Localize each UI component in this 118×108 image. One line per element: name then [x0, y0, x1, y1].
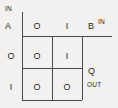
input-marker-right-label: IN: [98, 19, 105, 26]
input-marker-left-label: IN: [5, 6, 12, 13]
row-header-1: I: [2, 83, 20, 92]
table-cell-r1-c0: O: [22, 83, 52, 92]
output-variable-label: Q: [88, 67, 95, 76]
row-variable-label: A: [5, 22, 11, 31]
truth-table-figure: IN A B IN O I O I Q OUT O I O O: [0, 0, 118, 108]
axis-line-horizontal: [22, 36, 112, 37]
table-cell-r0-c1: I: [52, 52, 82, 61]
column-header-0: O: [22, 22, 52, 31]
column-variable-label: B: [88, 22, 94, 31]
table-cell-r1-c1: O: [52, 83, 82, 92]
output-marker-label: OUT: [87, 82, 102, 89]
grid-line-vertical-right: [82, 36, 83, 100]
grid-line-horizontal-bottom: [22, 100, 82, 101]
row-header-0: O: [2, 52, 20, 61]
table-cell-r0-c0: O: [22, 52, 52, 61]
column-header-1: I: [52, 22, 82, 31]
